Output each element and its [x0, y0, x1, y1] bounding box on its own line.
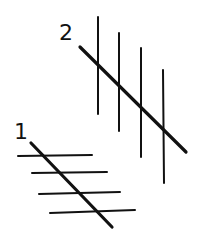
- diagonal-line-2: [80, 47, 186, 152]
- group-1-lines: [18, 143, 135, 227]
- horizontal-line: [50, 210, 135, 213]
- group-2-lines: [80, 17, 186, 183]
- label-1: 1: [14, 121, 28, 143]
- horizontal-line: [32, 172, 107, 173]
- horizontal-line: [18, 155, 92, 156]
- vertical-line: [163, 70, 164, 183]
- label-2: 2: [59, 22, 73, 44]
- diagram-lines: [0, 0, 197, 239]
- illusion-diagram: 1 2: [0, 0, 197, 239]
